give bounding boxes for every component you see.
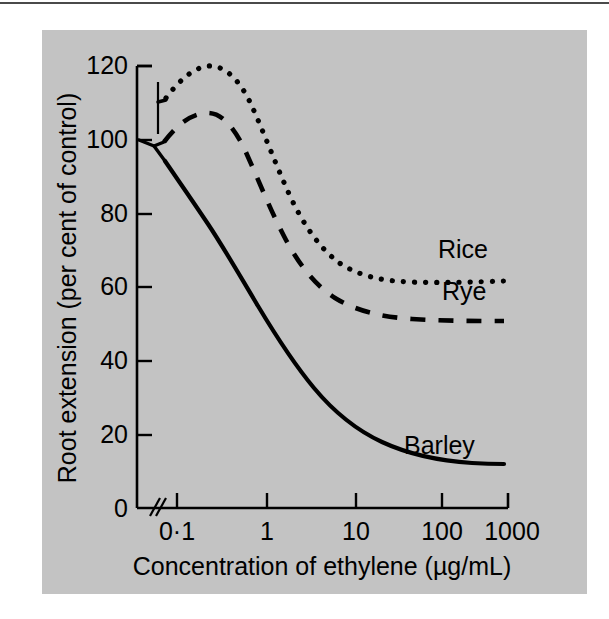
x-tick-label-0-1: 0·1 (159, 517, 195, 545)
x-axis-title: Concentration of ethylene (µg/mL) (133, 552, 512, 580)
x-tick-label-100: 100 (421, 517, 463, 545)
control-stubs (139, 100, 166, 161)
barley-control-stub (154, 146, 165, 161)
series-label-rice: Rice (438, 235, 488, 263)
figure-root: 120 100 80 60 40 20 0 0·1 1 10 100 1000 … (0, 0, 609, 619)
series-line-barley (165, 161, 504, 464)
x-tick-label-1000: 1000 (484, 517, 540, 545)
top-horizontal-rule (0, 2, 609, 4)
series-label-barley: Barley (404, 431, 475, 459)
y-axis-ticks (137, 66, 152, 435)
chart-svg: 120 100 80 60 40 20 0 0·1 1 10 100 1000 … (42, 30, 587, 594)
x-tick-label-1: 1 (260, 517, 274, 545)
y-tick-label-0: 0 (114, 494, 128, 522)
chart-panel: 120 100 80 60 40 20 0 0·1 1 10 100 1000 … (42, 30, 587, 594)
y-tick-label-60: 60 (100, 272, 128, 300)
x-axis-ticks (177, 493, 442, 508)
x-tick-label-10: 10 (342, 517, 370, 545)
series-label-rye: Rye (442, 277, 486, 305)
y-tick-label-120: 120 (86, 51, 128, 79)
y-axis-title: Root extension (per cent of control) (53, 93, 81, 483)
y-tick-label-40: 40 (100, 346, 128, 374)
y-tick-label-20: 20 (100, 420, 128, 448)
y-tick-label-100: 100 (86, 125, 128, 153)
y-tick-label-80: 80 (100, 199, 128, 227)
